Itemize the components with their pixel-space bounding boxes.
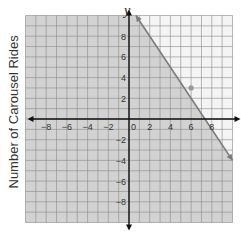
y-axis-arrow-down-icon — [126, 225, 132, 231]
x-tick-label: 0 — [131, 122, 136, 132]
x-tick-label: −8 — [41, 122, 51, 132]
y-tick-label: 4 — [121, 73, 126, 83]
y-tick-label: −2 — [116, 135, 126, 145]
y-axis-label: y — [122, 3, 131, 18]
test-point — [189, 85, 194, 90]
y-tick-label: −4 — [116, 156, 126, 166]
x-tick-label: 4 — [168, 122, 173, 132]
y-tick-label: 6 — [121, 52, 126, 62]
x-tick-label: 2 — [147, 122, 152, 132]
x-tick-label: −6 — [62, 122, 72, 132]
x-tick-label: 8 — [209, 122, 214, 132]
coordinate-plane: xy−8−6−4−202468−8−6−4−22468 — [0, 0, 241, 233]
x-tick-label: −4 — [82, 122, 92, 132]
x-tick-label: −2 — [103, 122, 113, 132]
x-tick-label: 6 — [189, 122, 194, 132]
y-tick-label: 8 — [121, 32, 126, 42]
y-tick-label: −8 — [116, 197, 126, 207]
x-axis-arrow-right-icon — [235, 116, 241, 122]
y-tick-label: 2 — [121, 94, 126, 104]
y-tick-label: −6 — [116, 177, 126, 187]
